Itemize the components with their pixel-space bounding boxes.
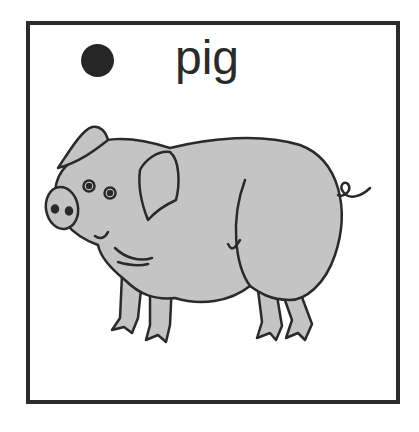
pig-icon [0, 0, 419, 432]
